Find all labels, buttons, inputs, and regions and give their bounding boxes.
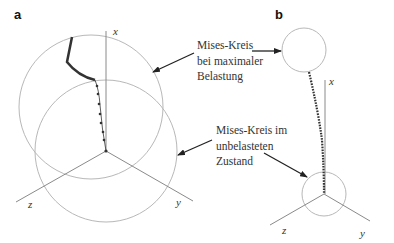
arrow-max-load-to-a — [153, 53, 194, 72]
z-axis-a — [16, 151, 106, 202]
load-path-thick-a — [67, 37, 95, 80]
panel-label-a: a — [14, 8, 21, 21]
annotation-line: Belastung — [197, 69, 263, 85]
axis-label-y-b: y — [360, 228, 365, 239]
panel-a-graphic — [16, 31, 193, 222]
axis-label-y-a: y — [176, 197, 181, 208]
axis-label-x-b: x — [329, 76, 334, 87]
annotation-line: bei maximaler — [197, 54, 263, 70]
axis-label-z-a: z — [28, 199, 32, 210]
y-axis-b — [324, 194, 370, 221]
axis-label-z-b: z — [282, 225, 286, 236]
mises-circle-max-load-a — [19, 35, 163, 179]
z-axis-b — [270, 194, 324, 225]
panel-label-b: b — [275, 8, 283, 21]
annotation-unloaded: Mises-Kreis im unbelasteten Zustand — [216, 123, 287, 170]
mises-circle-max-load-b — [282, 28, 326, 72]
annotation-line: unbelasteten — [216, 139, 287, 155]
y-axis-a — [106, 151, 193, 201]
annotation-line: Mises-Kreis — [197, 38, 263, 54]
annotation-max-load: Mises-Kreis bei maximaler Belastung — [197, 38, 263, 85]
annotation-line: Zustand — [216, 154, 287, 170]
mises-circle-diagram — [0, 0, 394, 243]
axis-label-x-a: x — [113, 26, 118, 37]
arrow-unloaded-to-a — [178, 140, 212, 155]
annotation-line: Mises-Kreis im — [216, 123, 287, 139]
